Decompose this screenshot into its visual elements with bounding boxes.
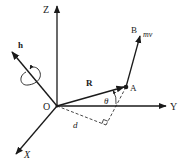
origin-label: O bbox=[43, 101, 50, 112]
x-axis-label: X bbox=[23, 149, 31, 160]
z-axis-label: Z bbox=[43, 4, 49, 15]
theta-arc bbox=[113, 91, 116, 105]
r-vector-label: R bbox=[86, 78, 93, 88]
momentum-vector bbox=[126, 36, 140, 87]
h-vector-label: h bbox=[18, 40, 23, 50]
h-vector bbox=[12, 52, 57, 106]
point-a-label: A bbox=[130, 83, 137, 93]
r-vector bbox=[57, 87, 124, 106]
angular-momentum-diagram: Z Y X O h d R θ A B mv bbox=[0, 0, 186, 164]
y-axis-label: Y bbox=[170, 101, 177, 112]
momentum-label: mv bbox=[143, 30, 153, 39]
theta-label: θ bbox=[104, 96, 109, 106]
distance-label: d bbox=[73, 120, 78, 130]
distance-line bbox=[57, 106, 106, 125]
x-axis bbox=[16, 106, 57, 154]
point-b-label: B bbox=[131, 25, 137, 35]
